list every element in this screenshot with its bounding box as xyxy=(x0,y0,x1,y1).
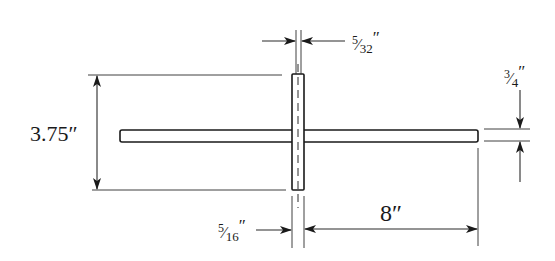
center-gap-label: 5⁄32″ xyxy=(352,28,380,56)
dimension-drawing: 3.75″ 5⁄32″ 3⁄4″ 5⁄16″ 8″ xyxy=(0,0,555,261)
bottom-dimensions: 5⁄16″ 8″ xyxy=(218,148,478,248)
post-width-label: 5⁄16″ xyxy=(218,216,246,244)
arm-length-label: 8″ xyxy=(380,200,402,226)
bar-thickness-label: 3⁄4″ xyxy=(504,62,525,90)
height-label: 3.75″ xyxy=(30,121,78,146)
vertical-post xyxy=(292,64,304,208)
bar-thickness-dimension: 3⁄4″ xyxy=(484,62,530,182)
center-gap-dimension: 5⁄32″ xyxy=(262,28,380,74)
